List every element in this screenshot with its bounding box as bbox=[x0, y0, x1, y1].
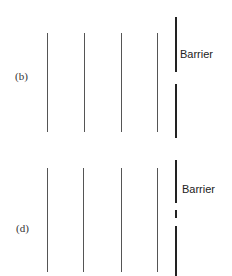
wavefront-line bbox=[47, 168, 48, 272]
barrier-segment bbox=[175, 226, 177, 276]
wavefront-line bbox=[121, 33, 122, 132]
panel-label: (b) bbox=[15, 70, 28, 82]
wavefront-line bbox=[157, 168, 158, 272]
barrier-label: Barrier bbox=[182, 183, 215, 195]
wavefront-line bbox=[84, 33, 85, 132]
panel-d: (d) Barrier bbox=[0, 138, 232, 276]
barrier-segment bbox=[175, 160, 177, 203]
wavefront-line bbox=[121, 168, 122, 272]
panel-b: (b) Barrier bbox=[0, 0, 232, 138]
barrier-segment bbox=[175, 210, 177, 218]
wavefront-line bbox=[47, 33, 48, 132]
barrier-segment bbox=[175, 84, 177, 138]
panel-label: (d) bbox=[16, 222, 29, 234]
barrier-label: Barrier bbox=[180, 48, 213, 60]
wavefront-line bbox=[83, 168, 84, 272]
wavefront-line bbox=[157, 33, 158, 132]
barrier-segment bbox=[175, 17, 177, 72]
